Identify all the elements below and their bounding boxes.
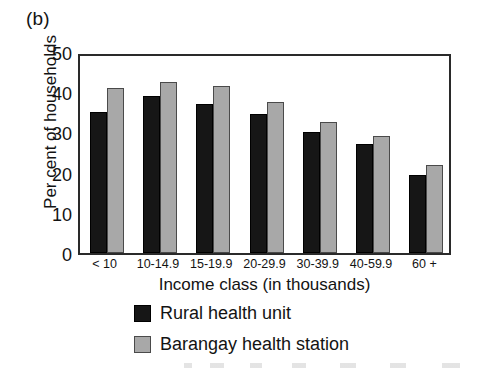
bar-group (196, 56, 230, 253)
bar-rural-health-unit (356, 144, 373, 253)
figure-panel-b: (b) Per cent of households 50403020100 <… (0, 0, 491, 372)
bar-barangay-health-station (373, 136, 390, 253)
legend-item-label: Rural health unit (160, 303, 291, 324)
x-tick-label: < 10 (78, 258, 131, 271)
bar-rural-health-unit (250, 114, 267, 253)
bar-rural-health-unit (303, 132, 320, 253)
bar-barangay-health-station (160, 82, 177, 253)
bar-group (303, 56, 337, 253)
y-tick-label: 50 (26, 45, 72, 63)
bar-group (356, 56, 390, 253)
plot-area (78, 54, 451, 255)
y-tick-label: 20 (26, 166, 72, 184)
y-axis-tick-labels: 50403020100 (22, 0, 72, 372)
bar-group (250, 56, 284, 253)
x-axis-title: Income class (in thousands) (78, 275, 451, 295)
gray-swatch-icon (134, 336, 151, 353)
y-tick-label: 10 (26, 206, 72, 224)
y-tick-label: 0 (26, 246, 72, 264)
bar-barangay-health-station (426, 165, 443, 253)
bar-barangay-health-station (267, 102, 284, 253)
bar-barangay-health-station (107, 88, 124, 253)
bar-rural-health-unit (409, 175, 426, 253)
bar-group (409, 56, 443, 253)
legend-item-barangay-health-station: Barangay health station (134, 329, 454, 360)
legend: Rural health unit Barangay health statio… (134, 298, 454, 360)
scan-artifact (180, 363, 480, 368)
legend-item-rural-health-unit: Rural health unit (134, 298, 454, 329)
bars-container (80, 56, 449, 253)
x-tick-label: 20-29.9 (238, 258, 291, 271)
x-tick-label: 10-14.9 (131, 258, 184, 271)
legend-item-label: Barangay health station (160, 334, 349, 355)
bar-rural-health-unit (143, 96, 160, 253)
bar-barangay-health-station (320, 122, 337, 253)
bar-group (143, 56, 177, 253)
bar-rural-health-unit (90, 112, 107, 253)
x-tick-label: 40-59.9 (344, 258, 397, 271)
bar-rural-health-unit (196, 104, 213, 253)
x-tick-label: 30-39.9 (291, 258, 344, 271)
dark-swatch-icon (134, 305, 151, 322)
y-tick-label: 40 (26, 85, 72, 103)
x-tick-label: 15-19.9 (185, 258, 238, 271)
bar-group (90, 56, 124, 253)
y-tick-label: 30 (26, 125, 72, 143)
x-tick-label: 60 + (398, 258, 451, 271)
bar-barangay-health-station (213, 86, 230, 253)
